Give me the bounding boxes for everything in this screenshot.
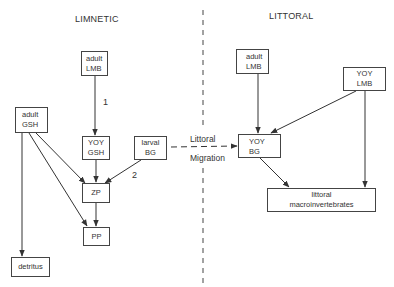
node-yoy-gsh: YOY GSH bbox=[82, 136, 110, 160]
node-littoral-macroinvertebrates: littoral macroinvertebrates bbox=[267, 188, 376, 212]
node-larval-bg: larval BG bbox=[134, 136, 167, 160]
edge-label-1: 1 bbox=[103, 97, 108, 107]
node-text: GSH bbox=[88, 148, 104, 158]
node-text: LMB bbox=[246, 62, 264, 72]
node-text: BG bbox=[145, 148, 156, 158]
node-text: YOY bbox=[88, 138, 104, 148]
migration-label-bottom: Migration bbox=[190, 153, 225, 163]
node-text: adult bbox=[246, 52, 264, 62]
node-text: BG bbox=[249, 147, 276, 157]
node-adult-lmb-limnetic: adult LMB bbox=[81, 51, 108, 76]
node-zp: ZP bbox=[82, 183, 110, 203]
node-text: LMB bbox=[86, 64, 103, 74]
node-text: detritus bbox=[18, 262, 43, 272]
node-text: GSH bbox=[22, 120, 43, 130]
node-yoy-bg: YOY BG bbox=[238, 134, 281, 158]
node-adult-lmb-littoral: adult LMB bbox=[236, 49, 269, 74]
food-web-diagram: LIMNETIC LITTORAL adult LMB adult GSH YO… bbox=[0, 0, 394, 287]
migration-label-top: Littoral bbox=[190, 134, 216, 144]
node-yoy-lmb: YOY LMB bbox=[343, 67, 386, 91]
node-text: PP bbox=[91, 232, 101, 242]
node-text: ZP bbox=[91, 188, 101, 198]
node-text: LMB bbox=[357, 79, 372, 89]
region-label-limnetic: LIMNETIC bbox=[75, 14, 119, 24]
node-pp: PP bbox=[83, 227, 110, 246]
node-detritus: detritus bbox=[11, 257, 50, 277]
node-text: macroinvertebrates bbox=[289, 200, 353, 210]
node-text: littoral bbox=[311, 190, 331, 200]
node-text: adult bbox=[86, 54, 103, 64]
region-label-littoral: LITTORAL bbox=[269, 11, 313, 21]
node-adult-gsh: adult GSH bbox=[15, 107, 48, 133]
node-text: adult bbox=[22, 110, 43, 120]
edge-label-2: 2 bbox=[132, 170, 137, 180]
node-text: larval bbox=[142, 138, 160, 148]
node-text: YOY bbox=[357, 69, 373, 79]
node-text: YOY bbox=[249, 137, 276, 147]
